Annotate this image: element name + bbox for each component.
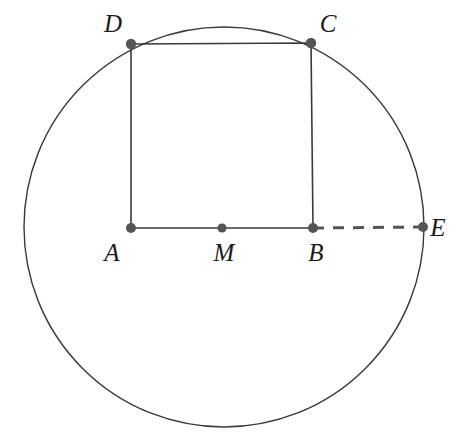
segment-b-to-e	[313, 227, 423, 228]
clipped-caption-text	[0, 0, 465, 11]
square-abcd	[131, 43, 313, 228]
point-m-dot	[217, 223, 226, 232]
point-label-a: A	[102, 239, 120, 266]
point-label-c: C	[320, 10, 337, 37]
point-a-dot	[126, 223, 136, 233]
geometry-figure: A M B C D E	[0, 0, 465, 448]
point-c-dot	[306, 38, 316, 48]
point-d-dot	[126, 39, 136, 49]
point-label-m: M	[213, 239, 236, 266]
point-e-dot	[418, 222, 428, 232]
point-label-b: B	[308, 239, 323, 266]
point-label-d: D	[103, 10, 122, 37]
point-b-dot	[308, 223, 318, 233]
figure-canvas: A M B C D E	[0, 0, 465, 448]
point-label-e: E	[429, 214, 445, 241]
